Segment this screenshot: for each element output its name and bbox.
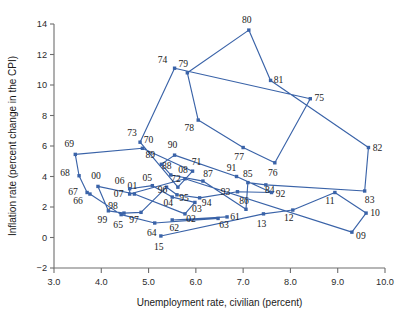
data-point-label-72: 72 [171, 173, 181, 184]
data-point-88[interactable] [169, 173, 172, 176]
data-point-label-00: 00 [91, 170, 101, 181]
data-point-label-83: 83 [365, 194, 375, 205]
data-point-74[interactable] [173, 67, 176, 70]
data-point-label-89: 89 [146, 149, 156, 160]
x-axis-title: Unemployment rate, civilian (percent) [137, 297, 303, 308]
data-point-label-97: 97 [129, 214, 139, 225]
data-point-label-11: 11 [325, 195, 334, 206]
data-point-81[interactable] [269, 79, 272, 82]
data-point-08[interactable] [183, 177, 186, 180]
data-point-90[interactable] [173, 153, 176, 156]
x-tick-label: 10.0 [376, 277, 394, 287]
data-point-71[interactable] [191, 169, 194, 172]
data-point-01[interactable] [133, 192, 136, 195]
data-point-label-74: 74 [158, 54, 168, 65]
data-point-10[interactable] [364, 211, 367, 214]
data-point-61[interactable] [225, 215, 228, 218]
data-point-70[interactable] [141, 147, 144, 150]
data-point-label-02: 02 [186, 213, 196, 224]
y-tick-label: 2 [42, 202, 47, 212]
data-point-64[interactable] [153, 221, 156, 224]
data-point-label-03: 03 [192, 203, 202, 214]
data-point-68[interactable] [77, 174, 80, 177]
x-tick-label: 9.0 [331, 277, 344, 287]
data-point-label-08: 08 [178, 164, 188, 175]
data-point-13[interactable] [262, 212, 265, 215]
data-point-98[interactable] [122, 211, 125, 214]
data-point-06[interactable] [128, 187, 131, 190]
data-point-label-66: 66 [73, 195, 83, 206]
data-point-label-93: 93 [221, 186, 231, 197]
data-point-label-94: 94 [202, 197, 212, 208]
data-point-97[interactable] [139, 211, 142, 214]
x-tick-label: 5.0 [142, 277, 155, 287]
data-point-label-12: 12 [284, 212, 294, 223]
data-point-label-64: 64 [147, 227, 157, 238]
data-point-75[interactable] [309, 97, 312, 100]
data-point-label-09: 09 [356, 230, 366, 241]
data-point-label-86: 86 [239, 195, 249, 206]
data-point-67[interactable] [85, 191, 88, 194]
data-point-89[interactable] [160, 163, 163, 166]
data-point-label-07: 07 [114, 188, 124, 199]
data-point-91[interactable] [235, 175, 238, 178]
data-point-93[interactable] [236, 190, 239, 193]
data-point-92[interactable] [270, 191, 273, 194]
data-point-80[interactable] [247, 28, 250, 31]
data-point-09[interactable] [350, 230, 353, 233]
y-tick-label: 8 [42, 111, 47, 121]
data-point-label-81: 81 [274, 74, 284, 85]
x-tick-label: 6.0 [189, 277, 202, 287]
data-point-label-68: 68 [60, 167, 70, 178]
data-point-05[interactable] [151, 184, 154, 187]
data-point-label-13: 13 [257, 218, 267, 229]
data-point-label-82: 82 [373, 142, 383, 153]
y-tick-label: 10 [37, 80, 47, 90]
data-point-label-79: 79 [179, 58, 189, 69]
data-point-label-75: 75 [314, 92, 324, 103]
data-point-95[interactable] [175, 193, 178, 196]
data-point-73[interactable] [138, 140, 141, 143]
data-point-label-06: 06 [115, 175, 125, 186]
data-point-label-78: 78 [184, 122, 194, 133]
inflation-unemployment-scatter-chart: −2024681012143.04.05.06.07.08.09.010.061… [0, 0, 409, 321]
data-point-76[interactable] [273, 161, 276, 164]
data-point-15[interactable] [159, 234, 162, 237]
data-point-00[interactable] [96, 185, 99, 188]
data-point-83[interactable] [363, 189, 366, 192]
data-point-72[interactable] [176, 185, 179, 188]
y-tick-label: 0 [42, 233, 47, 243]
data-point-label-67: 67 [68, 186, 78, 197]
data-point-label-90: 90 [168, 139, 178, 150]
data-point-label-04: 04 [163, 197, 173, 208]
data-point-label-96: 96 [158, 184, 168, 195]
data-point-label-92: 92 [276, 188, 286, 199]
data-point-label-10: 10 [370, 207, 380, 218]
data-point-label-77: 77 [234, 151, 244, 162]
data-point-label-69: 69 [64, 138, 74, 149]
y-tick-label: −2 [37, 263, 47, 273]
data-point-07[interactable] [128, 192, 131, 195]
axis-lines [54, 24, 385, 268]
y-tick-label: 14 [37, 19, 47, 29]
data-point-78[interactable] [197, 118, 200, 121]
data-point-79[interactable] [186, 71, 189, 74]
data-point-label-65: 65 [113, 219, 123, 230]
y-tick-label: 4 [42, 172, 47, 182]
data-point-77[interactable] [241, 146, 244, 149]
data-point-87[interactable] [201, 179, 204, 182]
data-point-label-05: 05 [143, 172, 153, 183]
data-point-82[interactable] [367, 146, 370, 149]
data-point-label-62: 62 [169, 222, 179, 233]
data-point-label-73: 73 [127, 127, 137, 138]
data-point-85[interactable] [246, 181, 249, 184]
data-point-94[interactable] [198, 196, 201, 199]
data-point-label-88: 88 [162, 160, 172, 171]
data-point-69[interactable] [74, 153, 77, 156]
x-tick-label: 8.0 [284, 277, 297, 287]
data-point-label-61: 61 [230, 211, 240, 222]
x-tick-label: 4.0 [95, 277, 108, 287]
data-point-86[interactable] [244, 208, 247, 211]
data-point-label-80: 80 [242, 14, 252, 25]
data-point-99[interactable] [107, 209, 110, 212]
